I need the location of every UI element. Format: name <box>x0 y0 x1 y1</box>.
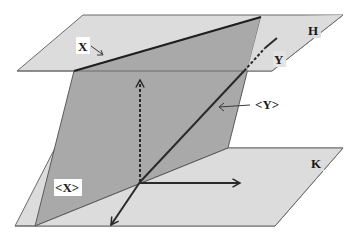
label-span-y: <Y> <box>255 97 279 112</box>
plane-h-front-portion <box>247 15 343 71</box>
diagram-canvas: X H Y <Y> <X> K <box>0 0 354 241</box>
label-k: K <box>311 156 322 171</box>
label-x: X <box>78 39 88 54</box>
label-h: H <box>308 23 318 38</box>
label-y: Y <box>274 52 284 67</box>
label-span-x: <X> <box>55 180 79 195</box>
